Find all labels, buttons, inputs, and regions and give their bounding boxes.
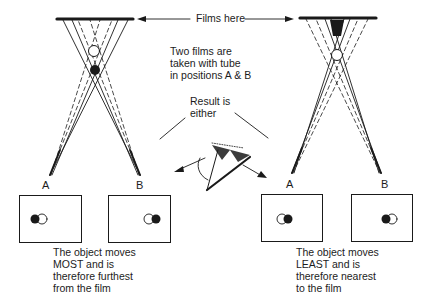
right-caption-line-1: The object moves (296, 246, 379, 258)
right-hollow-object (332, 50, 343, 61)
right-film-A (262, 195, 323, 242)
left-solid-object (90, 65, 100, 75)
left-tube-B-label: B (136, 179, 143, 191)
result-line-2: either (190, 107, 216, 119)
result-line-right (235, 113, 268, 138)
left-film-B (109, 196, 171, 243)
left-caption-line-4: from the film (53, 282, 111, 294)
left-caption-line-1: The object moves (53, 246, 136, 258)
two-films-line-2: taken with tube (170, 57, 241, 69)
result-line-left (160, 118, 185, 139)
left-caption-line-2: MOST and is (53, 258, 114, 270)
right-beam-diagram (292, 18, 381, 173)
result-line-1: Result is (190, 95, 230, 107)
left-film-A (20, 196, 82, 243)
left-tube-A-label: A (42, 179, 49, 191)
right-tube-B-label: B (381, 178, 388, 190)
right-caption-line-4: to the film (296, 282, 342, 294)
right-solid-object (330, 20, 344, 36)
films-here-label: Films here (196, 12, 245, 24)
arrow-right-icon (285, 16, 294, 22)
two-films-line-1: Two films are (170, 45, 232, 57)
two-films-line-3: in positions A & B (170, 69, 251, 81)
left-beam-diagram (50, 19, 140, 175)
left-caption-line-3: therefore furthest (53, 270, 133, 282)
right-tube-A-label: A (286, 178, 293, 190)
left-hollow-object (89, 46, 100, 57)
right-caption-line-2: LEAST and is (296, 258, 360, 270)
arrow-left-icon (137, 16, 146, 22)
right-caption-line-3: therefore nearest (296, 270, 376, 282)
center-arrow-left-icon (174, 166, 184, 172)
center-sketch (174, 143, 267, 190)
center-arrow-right-icon (257, 171, 267, 178)
right-film-B (352, 195, 413, 242)
